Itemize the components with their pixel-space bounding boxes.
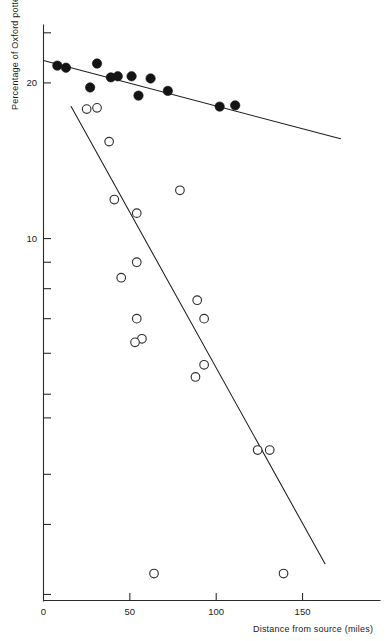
x-axis-label: Distance from source (miles) (253, 624, 373, 634)
open-circle-point (132, 314, 141, 323)
filled-circle-point (215, 102, 224, 111)
y-tick-label: 20 (26, 77, 37, 88)
open-circle-point (93, 104, 102, 113)
open-circle-point (191, 373, 200, 382)
open-circle-point (132, 209, 141, 218)
open-circle-point (200, 361, 209, 370)
x-tick-label: 0 (41, 606, 46, 617)
x-axis-ticks: 050100150 (41, 593, 311, 617)
open-circle-point (193, 296, 202, 305)
open-circle-point (131, 338, 140, 347)
x-tick-label: 100 (208, 606, 224, 617)
filled-circle-point (146, 74, 155, 83)
open-circle-series (82, 104, 287, 578)
y-axis-ticks: 2010 (26, 33, 51, 595)
open-circle-point (265, 446, 274, 455)
filled-circle-point (85, 83, 94, 92)
x-tick-label: 50 (125, 606, 136, 617)
filled-circle-point (163, 86, 172, 95)
filled-circle-series (53, 59, 240, 111)
chart-figure: 2010 050100150 Percentage of Oxford pott… (0, 0, 390, 641)
open-circle-point (279, 569, 288, 578)
open-circle-point (200, 314, 209, 323)
x-tick-label: 150 (295, 606, 311, 617)
regression-line (44, 60, 341, 138)
filled-circle-point (230, 101, 239, 110)
open-circle-point (110, 195, 119, 204)
y-tick-label: 10 (26, 233, 37, 244)
filled-circle-point (127, 72, 136, 81)
scatter-plot-svg: 2010 050100150 Percentage of Oxford pott… (0, 0, 390, 641)
open-circle-point (117, 273, 126, 282)
filled-circle-point (134, 91, 143, 100)
open-circle-point (82, 105, 91, 114)
open-circle-point (150, 569, 159, 578)
filled-circle-point (106, 73, 115, 82)
open-circle-point (132, 258, 141, 267)
filled-circle-point (53, 61, 62, 70)
open-circle-point (105, 137, 114, 146)
regression-line (71, 107, 325, 564)
open-circle-point (253, 446, 262, 455)
open-circle-point (176, 186, 185, 195)
filled-circle-point (61, 63, 70, 72)
filled-circle-point (92, 59, 101, 68)
regression-lines (44, 60, 341, 563)
y-axis-label: Percentage of Oxford pottery (10, 0, 20, 110)
